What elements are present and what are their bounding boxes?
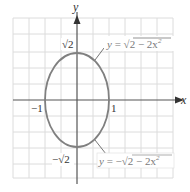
tick-y-neg: −√2 (52, 153, 70, 165)
upper-leader-line (95, 48, 104, 60)
tick-y-pos: √2 (62, 38, 74, 50)
svg-text:y = −√2 − 2x2: y = −√2 − 2x2 (98, 154, 160, 167)
y-axis-label: y (72, 0, 79, 14)
tick-x-neg: −1 (31, 102, 43, 114)
y-axis-arrow-icon (74, 15, 81, 24)
tick-x-pos: 1 (111, 102, 117, 114)
svg-text:y = √2 − 2x2: y = √2 − 2x2 (106, 37, 162, 50)
upper-curve-label: y = √2 − 2x2 (104, 36, 174, 51)
x-axis-label: x (180, 93, 187, 107)
lower-leader-line (95, 140, 106, 154)
ellipse-graph: y x √2 −√2 −1 1 y = √2 − 2x2 y = −√2 − 2… (0, 0, 190, 192)
lower-curve-label: y = −√2 − 2x2 (97, 153, 174, 168)
